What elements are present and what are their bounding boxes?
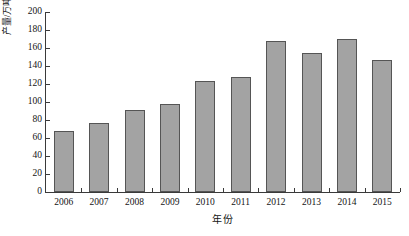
x-axis-tick-mark — [258, 188, 259, 192]
y-axis-tick-label: 100 — [0, 97, 42, 107]
x-axis-tick-label: 2010 — [185, 197, 225, 208]
x-axis-tick-mark — [188, 188, 189, 192]
bar-2006 — [54, 131, 74, 192]
y-axis-tick-label: 160 — [0, 43, 42, 53]
y-axis-tick-label: 40 — [0, 151, 42, 161]
bar-2011 — [231, 77, 251, 192]
y-axis-tick-label: 140 — [0, 61, 42, 71]
x-axis-title: 年份 — [45, 214, 400, 226]
bar-2013 — [302, 53, 322, 192]
bar-2007 — [89, 123, 109, 192]
y-axis-tick-label: 120 — [0, 79, 42, 89]
x-axis-tick-label: 2014 — [327, 197, 367, 208]
y-axis-tick-label: 20 — [0, 169, 42, 179]
x-axis-tick-mark — [329, 188, 330, 192]
y-axis-tick-mark — [46, 156, 50, 157]
y-axis-tick-mark — [46, 120, 50, 121]
x-axis-tick-mark — [400, 188, 401, 192]
y-axis-tick-label: 180 — [0, 25, 42, 35]
x-axis-tick-mark — [117, 188, 118, 192]
y-axis-tick-mark — [46, 30, 50, 31]
plot-area: 0204060801001201401601802002006200720082… — [45, 12, 400, 193]
x-axis-tick-label: 2013 — [292, 197, 332, 208]
x-axis-tick-mark — [365, 188, 366, 192]
bar-2015 — [372, 60, 392, 192]
x-axis-tick-label: 2008 — [115, 197, 155, 208]
bar-2012 — [266, 41, 286, 192]
x-axis-tick-label: 2007 — [79, 197, 119, 208]
y-axis-tick-label: 0 — [0, 187, 42, 197]
x-axis-tick-label: 2009 — [150, 197, 190, 208]
x-axis-tick-mark — [294, 188, 295, 192]
y-axis-tick-mark — [46, 66, 50, 67]
y-axis-tick-mark — [46, 48, 50, 49]
y-axis-tick-mark — [46, 12, 50, 13]
y-axis-tick-mark — [46, 138, 50, 139]
y-axis-tick-mark — [46, 84, 50, 85]
y-axis-tick-mark — [46, 174, 50, 175]
x-axis-tick-mark — [152, 188, 153, 192]
bar-2014 — [337, 39, 357, 192]
x-axis-tick-mark — [223, 188, 224, 192]
bar-2008 — [125, 110, 145, 192]
x-axis-tick-label: 2006 — [44, 197, 84, 208]
x-axis-tick-label: 2012 — [256, 197, 296, 208]
x-axis-tick-label: 2011 — [221, 197, 261, 208]
bar-2010 — [195, 81, 215, 192]
y-axis-tick-label: 80 — [0, 115, 42, 125]
x-axis-tick-mark — [81, 188, 82, 192]
y-axis-tick-label: 200 — [0, 7, 42, 17]
y-axis-tick-label: 60 — [0, 133, 42, 143]
bar-chart: 产量/万吨 0204060801001201401601802002006200… — [0, 0, 409, 236]
bar-2009 — [160, 104, 180, 192]
y-axis-tick-mark — [46, 102, 50, 103]
x-axis-tick-label: 2015 — [362, 197, 402, 208]
